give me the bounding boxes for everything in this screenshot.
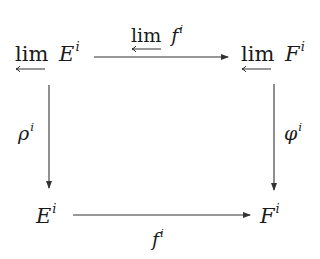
- node-symbol: F: [285, 42, 300, 66]
- commutative-diagram: lim Ei lim Fi lim fi: [0, 0, 320, 259]
- node-symbol: E: [59, 42, 74, 66]
- label-symbol: f: [171, 24, 178, 46]
- label-symbol: ρ: [18, 122, 29, 144]
- label-superscript: i: [160, 226, 164, 240]
- label-superscript: i: [179, 22, 183, 36]
- node-superscript: i: [52, 201, 56, 216]
- label-symbol: φ: [284, 122, 297, 144]
- node-top-right: lim Fi: [241, 40, 305, 65]
- node-bottom-left: Ei: [36, 202, 57, 227]
- node-superscript: i: [75, 39, 79, 54]
- label-symbol: f: [152, 228, 159, 250]
- label-superscript: i: [298, 120, 302, 134]
- lim-operator: lim: [241, 44, 274, 65]
- lim-operator: lim: [15, 44, 48, 65]
- node-superscript: i: [276, 201, 280, 216]
- left-arrow-label: ρi: [18, 122, 34, 143]
- label-superscript: i: [30, 120, 34, 134]
- node-top-left: lim Ei: [15, 40, 80, 65]
- leftarrow-under-icon: [131, 46, 161, 52]
- node-superscript: i: [301, 39, 305, 54]
- node-symbol: F: [260, 204, 275, 228]
- bottom-arrow-label: fi: [152, 228, 164, 249]
- top-arrow-label: lim fi: [131, 24, 183, 45]
- node-bottom-right: Fi: [260, 202, 280, 227]
- leftarrow-under-icon: [15, 66, 45, 72]
- leftarrow-under-icon: [241, 66, 271, 72]
- lim-operator: lim: [131, 26, 161, 45]
- right-arrow-label: φi: [284, 122, 302, 143]
- node-symbol: E: [36, 204, 51, 228]
